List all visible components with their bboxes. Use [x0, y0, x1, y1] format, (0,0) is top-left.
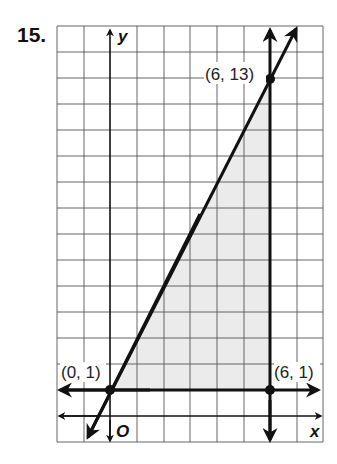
vertex-label-6-13: (6, 13)	[205, 65, 254, 84]
vertex-point-0-1	[105, 385, 115, 395]
coordinate-graph: (0, 1) (6, 13) (6, 1) y x O	[0, 0, 337, 464]
origin-label: O	[116, 422, 129, 441]
vertex-label-0-1: (0, 1)	[61, 363, 101, 382]
vertex-point-6-1	[265, 385, 275, 395]
vertex-point-6-13	[265, 74, 275, 84]
x-axis-label: x	[309, 422, 321, 441]
y-axis-label: y	[117, 27, 129, 46]
vertex-label-6-1: (6, 1)	[274, 363, 314, 382]
